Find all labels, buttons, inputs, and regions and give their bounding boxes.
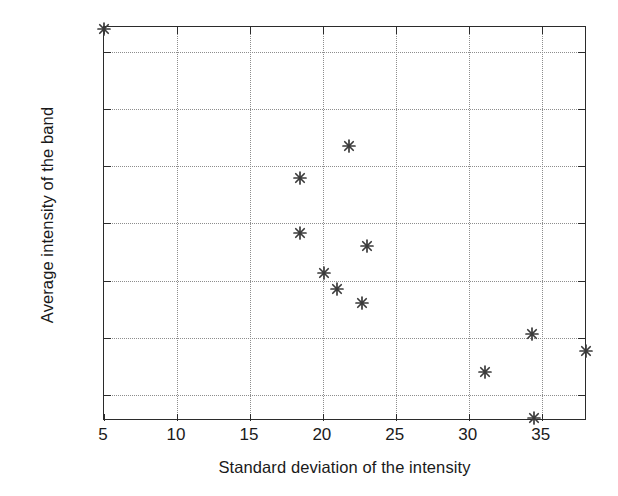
tick-x-top [323, 27, 324, 34]
tick-y-right [578, 223, 585, 224]
tick-x-top [177, 27, 178, 34]
tick-y-left [104, 281, 111, 282]
scatter-plot-figure: Average intensity of the band Standard d… [0, 0, 618, 496]
tick-x-bottom [396, 414, 397, 421]
tick-x-bottom [104, 414, 105, 421]
tick-y-right [578, 166, 585, 167]
data-point-marker [330, 281, 345, 296]
data-point-marker [292, 225, 307, 240]
data-point-marker [527, 410, 542, 425]
data-point-marker [477, 364, 492, 379]
tick-x-top [469, 27, 470, 34]
tick-x-bottom [469, 414, 470, 421]
plot-area [103, 26, 586, 420]
tick-y-left [104, 395, 111, 396]
gridline-horizontal [104, 109, 585, 110]
data-point-marker [342, 138, 357, 153]
tick-label-x: 25 [385, 425, 404, 445]
tick-y-left [104, 52, 111, 53]
data-point-marker [524, 327, 539, 342]
data-point-marker [355, 296, 370, 311]
data-point-marker [359, 239, 374, 254]
gridline-horizontal [104, 395, 585, 396]
x-axis-label: Standard deviation of the intensity [103, 458, 586, 477]
tick-label-x: 10 [166, 425, 185, 445]
gridline-horizontal [104, 338, 585, 339]
tick-label-x: 35 [531, 425, 550, 445]
tick-x-bottom [250, 414, 251, 421]
y-axis-label: Average intensity of the band [30, 5, 64, 425]
tick-y-right [578, 281, 585, 282]
tick-label-x: 15 [239, 425, 258, 445]
tick-y-left [104, 338, 111, 339]
tick-label-x: 20 [312, 425, 331, 445]
tick-x-bottom [177, 414, 178, 421]
tick-y-right [578, 338, 585, 339]
tick-y-left [104, 166, 111, 167]
gridline-horizontal [104, 223, 585, 224]
gridline-horizontal [104, 281, 585, 282]
data-point-marker [578, 344, 593, 359]
tick-x-top [104, 27, 105, 34]
tick-y-left [104, 223, 111, 224]
tick-y-right [578, 52, 585, 53]
data-point-marker [292, 170, 307, 185]
tick-x-top [250, 27, 251, 34]
gridline-horizontal [104, 52, 585, 53]
tick-y-left [104, 109, 111, 110]
tick-label-x: 30 [458, 425, 477, 445]
tick-y-right [578, 109, 585, 110]
tick-y-right [578, 395, 585, 396]
tick-x-top [542, 27, 543, 34]
gridline-horizontal [104, 166, 585, 167]
tick-x-bottom [323, 414, 324, 421]
tick-label-x: 5 [98, 425, 107, 445]
tick-x-top [396, 27, 397, 34]
data-point-marker [317, 265, 332, 280]
tick-x-bottom [542, 414, 543, 421]
